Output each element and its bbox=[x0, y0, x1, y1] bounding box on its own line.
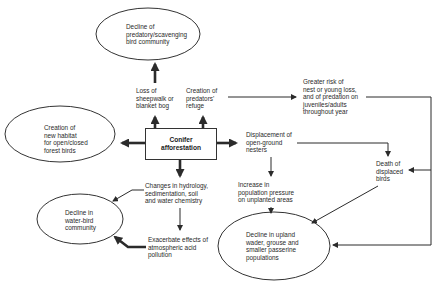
conifer-afforestation-label: Conifer afforestation bbox=[161, 136, 201, 152]
displacement-label: Displacement of open-ground nesters bbox=[246, 131, 292, 154]
new-habitat-label: Creation of new habitat for open/closed … bbox=[44, 124, 88, 154]
greater-risk-label: Greater risk of nest or young loss, and … bbox=[303, 78, 358, 116]
sheepwalk-loss-label: Loss of sheepwalk or blanket bog bbox=[136, 87, 174, 110]
arrow-hydrology-to-waterbird bbox=[113, 190, 144, 201]
population-pressure-label: Increase in population pressure on unpla… bbox=[238, 181, 294, 204]
arrow-death-to-upland bbox=[312, 186, 378, 223]
predators-refuge-label: Creation of predators' refuge bbox=[186, 87, 217, 110]
predatory-decline-label: Decline of predatory/scavenging bird com… bbox=[126, 23, 187, 46]
conifer-afforestation-box: Conifer afforestation bbox=[145, 128, 217, 160]
acid-pollution-label: Exacerbate effects of atmospheric acid p… bbox=[148, 236, 208, 259]
hydrology-changes-label: Changes in hydrology, sedimentation, soi… bbox=[145, 182, 208, 205]
waterbird-decline-label: Decline in water-bird community bbox=[65, 209, 96, 232]
arrow-displacement-to-death bbox=[297, 143, 388, 156]
arrow-acid-to-waterbird bbox=[115, 237, 146, 247]
death-displaced-label: Death of displaced birds bbox=[376, 160, 403, 183]
upland-decline-label: Decline in upland wader, grouse and smal… bbox=[246, 231, 299, 261]
